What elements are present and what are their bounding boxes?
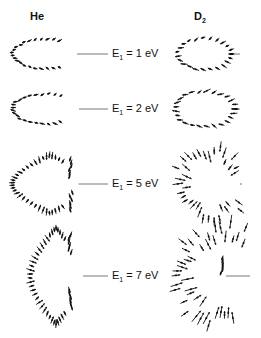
velocity-arrow-icon xyxy=(182,164,190,171)
velocity-arrow-icon xyxy=(196,125,202,128)
velocity-arrow-icon xyxy=(59,229,61,234)
vector-plot-d2-2 xyxy=(172,89,238,128)
velocity-arrow-icon xyxy=(11,187,16,189)
velocity-arrow-icon xyxy=(220,271,223,276)
velocity-arrow-icon xyxy=(51,67,55,70)
velocity-arrow-icon xyxy=(19,61,24,64)
velocity-arrow-icon xyxy=(181,43,186,45)
velocity-arrow-icon xyxy=(178,47,184,49)
velocity-arrow-icon xyxy=(177,261,186,265)
velocity-arrow-icon xyxy=(203,312,210,324)
velocity-arrow-icon xyxy=(207,232,210,240)
velocity-arrow-icon xyxy=(174,101,181,104)
velocity-arrow-icon xyxy=(231,108,238,110)
velocity-arrow-icon xyxy=(13,57,18,59)
velocity-arrow-icon xyxy=(15,173,19,176)
velocity-arrow-icon xyxy=(58,206,61,213)
velocity-arrow-icon xyxy=(39,303,44,309)
velocity-arrow-icon xyxy=(11,54,15,56)
velocity-arrow-icon xyxy=(48,315,51,319)
velocity-arrow-icon xyxy=(202,214,205,224)
velocity-arrow-icon xyxy=(182,94,188,96)
velocity-arrow-icon xyxy=(223,311,225,319)
vector-plot-d2-4 xyxy=(170,215,248,332)
velocity-arrow-icon xyxy=(215,38,219,41)
velocity-arrow-icon xyxy=(52,38,56,41)
velocity-arrow-icon xyxy=(43,239,47,245)
velocity-arrow-icon xyxy=(208,151,211,163)
velocity-arrow-icon xyxy=(22,168,25,171)
velocity-arrow-icon xyxy=(46,67,50,70)
vector-plot-d2-3 xyxy=(172,141,244,225)
velocity-arrow-icon xyxy=(188,200,193,204)
velocity-arrow-icon xyxy=(47,123,50,126)
velocity-arrow-icon xyxy=(49,232,51,237)
velocity-arrow-icon xyxy=(187,65,193,68)
velocity-arrow-icon xyxy=(180,300,187,304)
velocity-arrow-icon xyxy=(184,152,192,160)
velocity-arrow-icon xyxy=(26,199,29,203)
velocity-arrow-icon xyxy=(54,155,56,160)
velocity-arrow-icon xyxy=(70,197,73,202)
velocity-arrow-icon xyxy=(194,37,198,41)
velocity-arrow-icon xyxy=(48,151,50,158)
velocity-arrow-icon xyxy=(220,41,226,44)
velocity-arrow-icon xyxy=(9,182,15,184)
velocity-arrow-icon xyxy=(57,227,59,232)
velocity-arrow-icon xyxy=(172,110,180,113)
velocity-arrow-icon xyxy=(34,94,39,97)
velocity-arrow-icon xyxy=(173,106,179,108)
velocity-arrow-icon xyxy=(184,259,192,262)
velocity-arrow-icon xyxy=(213,147,215,154)
velocity-arrow-icon xyxy=(35,296,39,300)
velocity-arrow-icon xyxy=(219,123,225,126)
velocity-arrow-icon xyxy=(29,261,36,264)
velocity-arrow-icon xyxy=(23,119,28,122)
vector-plot-he-2 xyxy=(11,92,63,126)
velocity-arrow-icon xyxy=(51,210,53,216)
velocity-arrow-icon xyxy=(29,163,33,167)
velocity-arrow-icon xyxy=(28,94,33,96)
velocity-arrow-icon xyxy=(53,227,55,232)
velocity-arrow-icon xyxy=(188,239,193,246)
velocity-arrow-icon xyxy=(12,48,16,50)
velocity-arrow-icon xyxy=(175,51,179,53)
velocity-arrow-icon xyxy=(217,93,224,96)
velocity-arrow-icon xyxy=(64,236,67,241)
velocity-arrow-icon xyxy=(30,289,36,292)
velocity-arrow-icon xyxy=(225,95,231,98)
velocity-arrow-icon xyxy=(214,220,217,233)
velocity-arrow-icon xyxy=(198,207,202,217)
velocity-arrow-icon xyxy=(181,311,188,316)
velocity-arrow-icon xyxy=(229,215,232,229)
velocity-arrow-icon xyxy=(17,171,23,174)
velocity-arrow-icon xyxy=(182,248,190,252)
velocity-arrow-icon xyxy=(36,300,43,305)
velocity-arrow-icon xyxy=(26,280,34,283)
velocity-arrow-icon xyxy=(37,247,42,253)
velocity-arrow-icon xyxy=(181,277,194,280)
velocity-arrow-icon xyxy=(38,156,41,163)
velocity-arrow-icon xyxy=(234,166,239,169)
velocity-arrow-icon xyxy=(205,239,211,250)
velocity-arrow-icon xyxy=(42,156,45,160)
velocity-arrow-icon xyxy=(43,307,47,314)
velocity-arrow-icon xyxy=(29,285,34,288)
velocity-arrow-icon xyxy=(231,152,238,159)
velocity-arrow-icon xyxy=(208,68,213,71)
velocity-arrow-icon xyxy=(17,117,21,120)
velocity-arrow-icon xyxy=(241,239,245,248)
velocity-arrow-icon xyxy=(61,205,64,210)
velocity-arrow-icon xyxy=(10,51,14,53)
velocity-arrow-icon xyxy=(27,273,33,275)
velocity-arrow-icon xyxy=(224,231,227,243)
velocity-arrow-icon xyxy=(172,274,181,277)
velocity-arrow-icon xyxy=(12,189,16,192)
velocity-arrow-icon xyxy=(173,270,182,272)
velocity-arrow-icon xyxy=(34,122,38,124)
velocity-arrow-icon xyxy=(222,147,226,157)
velocity-arrow-icon xyxy=(58,66,61,69)
velocity-arrow-icon xyxy=(22,41,26,44)
velocity-arrow-icon xyxy=(226,201,231,206)
velocity-arrow-icon xyxy=(232,103,238,105)
